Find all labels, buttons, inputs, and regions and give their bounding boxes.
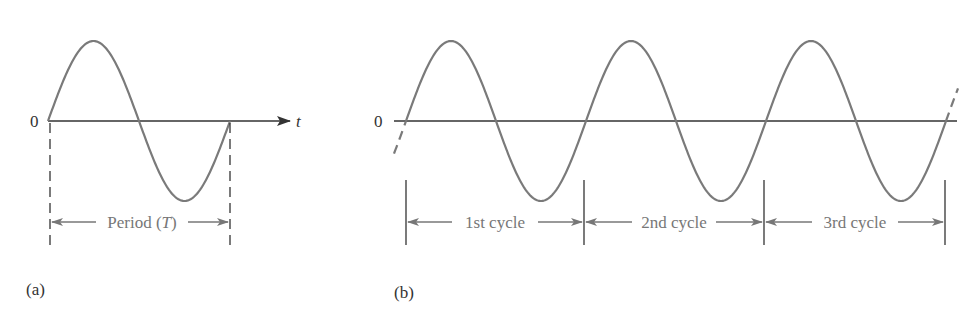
cycle-label: 2nd cycle [641, 213, 707, 232]
panel-a: 0 t Period (T) (a) [26, 41, 302, 299]
panel-b-label: (b) [394, 283, 414, 302]
cycle-label: 1st cycle [465, 213, 525, 232]
panel-a-label: (a) [26, 280, 45, 299]
cycle-label: 3rd cycle [824, 213, 887, 232]
curve-continuation-right [946, 88, 958, 121]
time-axis-label: t [296, 112, 302, 131]
period-label: Period (T) [107, 213, 176, 232]
curve-continuation-left [394, 121, 406, 154]
figure-canvas: 0 t Period (T) (a) 0 1st cycle [0, 0, 978, 324]
origin-label: 0 [374, 112, 383, 131]
panel-b: 0 1st cycle 2nd cycle 3rd cycle (b) [374, 41, 958, 302]
origin-label: 0 [30, 112, 39, 131]
sine-wave-figure: 0 t Period (T) (a) 0 1st cycle [0, 0, 978, 324]
